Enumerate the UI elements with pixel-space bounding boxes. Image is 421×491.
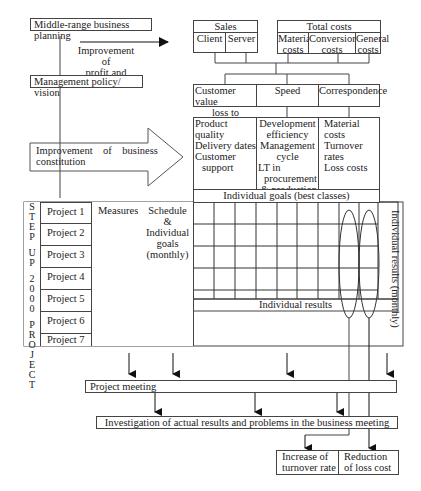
loss-line1: Reduction	[344, 451, 398, 462]
sales-title: Sales	[214, 21, 236, 32]
detail-procurement: procurement	[257, 173, 318, 184]
factor-speed: Speed	[256, 84, 319, 107]
conversion-line2: costs	[309, 44, 355, 55]
planning-box: Middle-range business planning	[30, 18, 152, 31]
factor-customer-value: Customer value loss to changes	[193, 84, 257, 107]
project-1[interactable]: Project 1	[40, 202, 92, 224]
outcome-loss-box: Reduction of loss cost	[338, 450, 399, 475]
customer-line1: Customer value	[195, 85, 256, 107]
schedule-line3: Individual	[142, 227, 193, 238]
schedule-line2: &	[142, 216, 193, 227]
step-up-label-column: S T E P U P 2 0 0 0 P R O J E C T	[24, 202, 41, 346]
conversion-costs-cell: Conversion costs	[308, 32, 356, 54]
project-meeting-box: Project meeting	[85, 380, 397, 393]
correspondence-label: Correspondence	[319, 85, 387, 96]
outcome-turnover-box: Increase of turnover rate	[276, 450, 339, 475]
policy-label: Management policy/ vision	[34, 76, 121, 98]
detail-product-quality: Product quality	[195, 118, 256, 140]
planning-label: Middle-range business planning	[34, 19, 129, 41]
detail-material-costs: Material costs	[324, 118, 379, 140]
big-arrow-label: Improvement of business constitution	[36, 145, 146, 167]
measures-header: Measures	[98, 205, 138, 216]
speed-label: Speed	[275, 85, 301, 96]
detail-loss-costs: Loss costs	[324, 162, 379, 173]
factor-correspondence: Correspondence	[318, 84, 380, 107]
project-7[interactable]: Project 7	[40, 333, 92, 346]
general-costs-cell: General costs	[355, 32, 381, 54]
detail-customer: Customer	[195, 151, 256, 162]
details-col-correspondence: Material costs Turnover rates Loss costs	[318, 117, 380, 190]
schedule-line5: (monthly)	[142, 249, 193, 260]
project-2[interactable]: Project 2	[40, 223, 92, 246]
big-arrow-line2: constitution	[36, 156, 146, 167]
individual-goals-header: Individual goals (best classes)	[193, 189, 380, 203]
schedule-column: Schedule & Individual goals (monthly)	[142, 202, 194, 346]
detail-cycle: cycle	[257, 151, 318, 162]
material-costs-cell: Material costs	[277, 32, 309, 54]
general-line2: costs	[356, 44, 380, 55]
client-label: Client	[197, 33, 223, 44]
big-arrow-line1: Improvement of business	[36, 145, 146, 156]
profit-label-line1: Improvement of	[76, 45, 136, 67]
material-line2: costs	[278, 44, 308, 55]
project-meeting-label: Project meeting	[90, 381, 156, 392]
detail-turnover-rates: Turnover rates	[324, 140, 379, 162]
schedule-line1: Schedule	[142, 205, 193, 216]
individual-results-label: Individual results	[193, 299, 398, 310]
server-label: Server	[228, 33, 255, 44]
project-4[interactable]: Project 4	[40, 267, 92, 290]
loss-line2: of loss cost	[344, 462, 398, 473]
detail-lt-in: LT in	[257, 162, 318, 173]
details-col-quality: Product quality Delivery dates Customer …	[193, 117, 257, 190]
investigation-label: Investigation of actual results and prob…	[105, 417, 389, 428]
measures-column: Measures	[91, 202, 143, 346]
detail-delivery-dates: Delivery dates	[195, 140, 256, 151]
investigation-box: Investigation of actual results and prob…	[96, 416, 398, 429]
turnover-line2: turnover rate	[282, 462, 338, 473]
conversion-line1: Conversion	[309, 33, 355, 44]
turnover-line1: Increase of	[282, 451, 338, 462]
sales-server: Server	[225, 32, 258, 53]
step-up-vertical-text: S T E P U P 2 0 0 0 P R O J E C T	[26, 202, 38, 390]
project-6[interactable]: Project 6	[40, 311, 92, 334]
detail-development: Development	[257, 118, 318, 129]
individual-results-monthly-label: Individual results (monthly)	[390, 210, 401, 328]
schedule-line4: goals	[142, 238, 193, 249]
project-3[interactable]: Project 3	[40, 245, 92, 268]
material-line1: Material	[278, 33, 308, 44]
detail-efficiency: efficiency	[257, 129, 318, 140]
goals-header-label: Individual goals (best classes)	[223, 190, 349, 201]
total-costs-title: Total costs	[306, 21, 351, 32]
details-col-speed: Development efficiency Management cycle …	[256, 117, 319, 190]
general-line1: General	[356, 33, 380, 44]
detail-support: support	[195, 162, 256, 173]
detail-management: Management	[257, 140, 318, 151]
sales-client: Client	[193, 32, 226, 53]
project-5[interactable]: Project 5	[40, 289, 92, 312]
policy-box: Management policy/ vision	[30, 75, 143, 88]
